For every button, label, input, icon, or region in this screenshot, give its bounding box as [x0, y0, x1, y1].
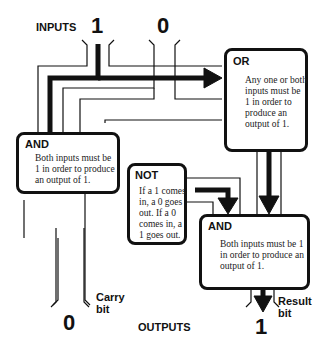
wire-input-b-right — [175, 40, 222, 99]
carry-output-value: 0 — [63, 310, 75, 336]
result-output-value: 1 — [255, 314, 267, 340]
carry-bit-label: Carry bit — [96, 291, 125, 315]
input-a-value: 1 — [91, 13, 103, 39]
input-b-value: 0 — [157, 13, 169, 39]
not-gate: NOT If a 1 comes in, a 0 goes out. If a … — [127, 163, 187, 245]
and-gate-left-title: AND — [25, 138, 49, 150]
or-gate: OR Any one or both inputs must be 1 in o… — [224, 48, 308, 152]
or-gate-desc: Any one or both inputs must be 1 in orde… — [245, 75, 307, 130]
and-gate-right-title: AND — [208, 220, 232, 232]
half-adder-diagram: INPUTS 1 0 OR Any one or both inputs mus… — [0, 0, 325, 348]
wire-input-a-right — [109, 40, 222, 66]
not-gate-desc: If a 1 comes in, a 0 goes out. If a 0 co… — [139, 186, 189, 241]
inputs-label: INPUTS — [36, 21, 76, 33]
not-gate-title: NOT — [135, 169, 158, 181]
or-gate-title: OR — [233, 55, 250, 67]
outputs-label: OUTPUTS — [138, 321, 191, 333]
and-gate-left-desc: Both inputs must be 1 in order to produc… — [35, 153, 117, 186]
and-gate-left: AND Both inputs must be 1 in order to pr… — [16, 132, 120, 194]
and-gate-right: AND Both inputs must be 1 in order to pr… — [199, 214, 310, 290]
result-bit-label: Result bit — [278, 295, 312, 319]
and-gate-right-desc: Both inputs must be 1 in order to produc… — [220, 239, 308, 272]
